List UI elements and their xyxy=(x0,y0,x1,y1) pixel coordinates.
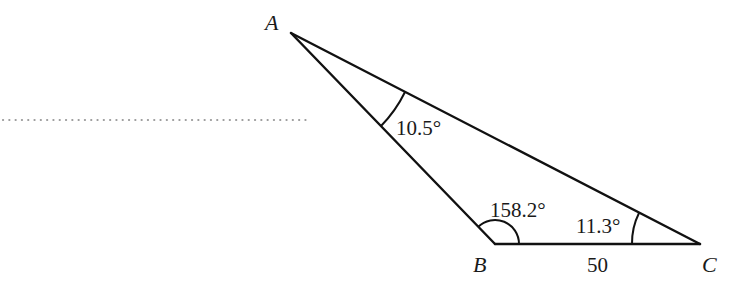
edge-ab xyxy=(291,33,495,244)
triangle-diagram: A B C 10.5° 158.2° 11.3° 50 xyxy=(0,0,745,295)
angle-arc-c xyxy=(632,213,639,244)
angle-label-c: 11.3° xyxy=(576,214,620,238)
vertex-label-b: B xyxy=(473,252,486,277)
vertex-label-a: A xyxy=(263,10,279,35)
angle-label-b: 158.2° xyxy=(490,198,546,222)
angle-label-a: 10.5° xyxy=(396,116,441,140)
vertex-label-c: C xyxy=(702,252,717,277)
side-label-bc: 50 xyxy=(587,253,608,277)
